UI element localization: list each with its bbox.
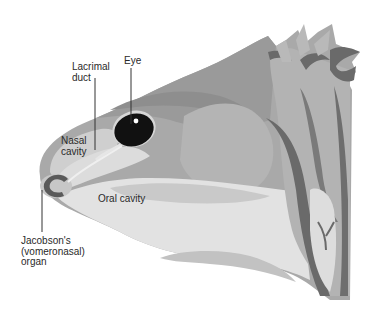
label-eye: Eye	[124, 56, 141, 67]
label-lacrimal-duct: Lacrimal duct	[72, 62, 110, 83]
head-illustration	[0, 0, 368, 322]
label-jacobsons-organ: Jacobson's (vomeronasal) organ	[21, 236, 85, 268]
label-nasal-cavity: Nasal cavity	[61, 136, 87, 157]
eye-highlight	[134, 119, 139, 124]
label-oral-cavity: Oral cavity	[98, 194, 145, 205]
reptile-head-diagram: Lacrimal duct Eye Nasal cavity Oral cavi…	[0, 0, 368, 322]
